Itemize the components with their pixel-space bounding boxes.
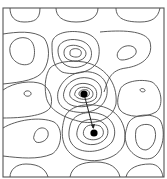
contour-line (64, 45, 86, 61)
contour-line (135, 124, 155, 150)
contour-line (56, 8, 98, 22)
contour-line (117, 46, 136, 60)
contour-line (140, 89, 145, 92)
contour-line (34, 128, 49, 143)
contour-line (70, 162, 120, 177)
contour-line (10, 164, 48, 177)
contour-line (126, 164, 163, 177)
contour-line (70, 49, 81, 57)
contour-plot (0, 0, 167, 179)
contour-line (10, 38, 35, 65)
contour-line (24, 91, 31, 96)
contour-line (118, 80, 161, 116)
contour-line (125, 115, 163, 159)
contour-line (3, 119, 61, 158)
contour-line (10, 8, 40, 22)
contour-line (116, 8, 160, 22)
contour-line (100, 31, 151, 92)
upper-minimum-dot (80, 90, 87, 97)
contour-line (3, 82, 52, 118)
contour-line (45, 61, 116, 122)
contour-line (3, 32, 49, 84)
lower-minimum-dot (90, 129, 97, 136)
